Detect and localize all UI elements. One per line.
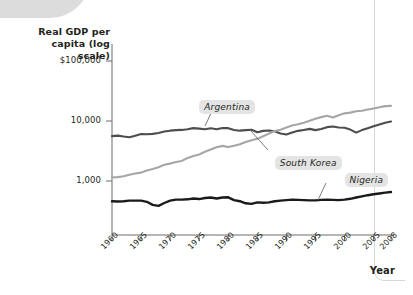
series-label-argentina: Argentina [199,100,255,114]
gdp-per-capita-line-chart: Real GDP per capita (log scale) Year $10… [0,0,413,295]
series-line-argentina [112,122,391,138]
plot-canvas [0,0,413,295]
series-line-nigeria [112,192,391,206]
leader-line-nigeria [318,183,326,200]
series-line-south-korea [112,106,391,178]
figure-card: Real GDP per capita (log scale) Year $10… [0,0,413,295]
y-axis-tick-label: $100,000 [29,55,101,65]
series-label-south-korea: South Korea [275,156,342,170]
series-label-nigeria: Nigeria [345,173,389,187]
y-axis-tick-label: 1,000 [29,175,101,185]
y-axis-tick-label: 10,000 [29,115,101,125]
